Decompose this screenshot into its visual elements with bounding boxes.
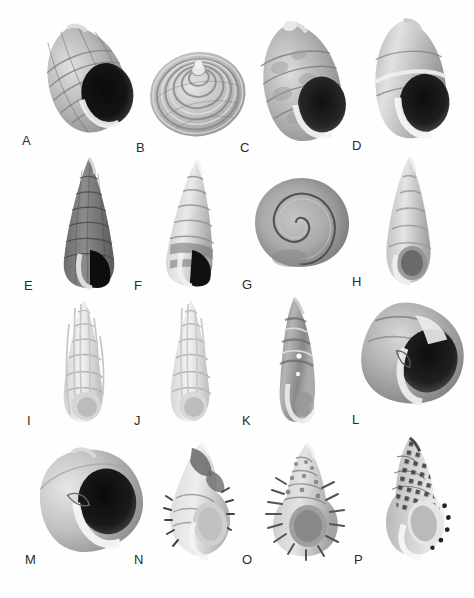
panel-label-b: B <box>136 141 145 154</box>
specimen-image-a <box>28 18 148 138</box>
panel-label-g: G <box>242 278 252 291</box>
panel-label-m: M <box>25 553 36 566</box>
panel-label-f: F <box>134 279 142 292</box>
panel-label-d: D <box>352 139 362 152</box>
specimen-image-c <box>246 18 364 146</box>
specimen-image-p <box>368 436 456 562</box>
panel-label-l: L <box>352 413 359 426</box>
panel-label-o: O <box>242 553 252 566</box>
specimen-image-h <box>376 155 444 289</box>
panel-label-i: I <box>27 414 31 427</box>
panel-label-j: J <box>134 414 141 427</box>
panel-label-n: N <box>134 553 144 566</box>
specimen-image-b <box>142 28 254 140</box>
specimen-image-n <box>156 440 240 562</box>
panel-label-e: E <box>24 279 33 292</box>
specimen-image-l <box>356 300 472 410</box>
specimen-image-g <box>252 176 352 270</box>
specimen-image-o <box>254 440 354 562</box>
panel-label-p: P <box>354 553 363 566</box>
specimen-image-k <box>268 296 326 426</box>
panel-label-c: C <box>240 141 250 154</box>
specimen-image-j <box>162 296 222 428</box>
panel-label-h: H <box>352 275 362 288</box>
specimen-image-d <box>356 16 468 144</box>
specimen-image-e <box>52 156 126 292</box>
specimen-plate: A B C D E F G H I J K L M N O P <box>0 0 474 598</box>
specimen-image-m <box>30 444 154 556</box>
specimen-image-f <box>158 158 228 290</box>
panel-label-a: A <box>22 134 31 147</box>
panel-label-k: K <box>242 414 251 427</box>
specimen-image-i <box>54 296 116 428</box>
